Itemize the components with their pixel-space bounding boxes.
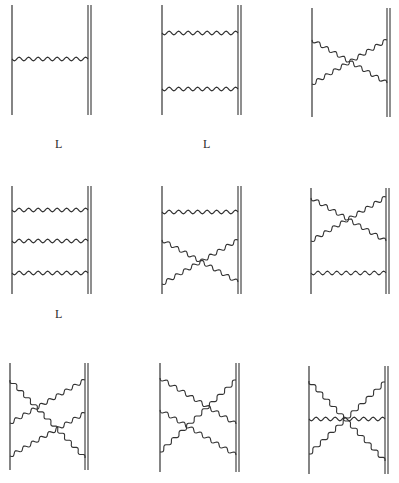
diagram-triple-cross-a [10, 363, 88, 470]
diagram-label: L [203, 137, 210, 152]
diagram-ladder-3 [12, 186, 91, 294]
diagram-ladder-2 [162, 5, 241, 115]
exchange-wavy-line [160, 410, 236, 455]
exchange-wavy-line [312, 40, 387, 85]
diagram-crossed-upper-ladder [311, 188, 389, 294]
exchange-wavy-line [162, 87, 238, 91]
diagram-figure [0, 0, 399, 483]
diagram-triple-cross-c [309, 366, 388, 474]
diagram-ladder-crossed-lower [162, 186, 241, 294]
exchange-wavy-line [162, 31, 238, 35]
exchange-wavy-line [311, 271, 386, 275]
diagram-label: L [55, 137, 62, 152]
exchange-wavy-line [12, 208, 88, 212]
diagram-ladder-1 [12, 5, 91, 115]
exchange-wavy-line [12, 239, 88, 243]
exchange-wavy-line [160, 378, 236, 424]
diagram-triple-cross-b [160, 363, 239, 472]
exchange-wavy-line [12, 57, 88, 61]
diagram-crossed-2 [312, 8, 390, 117]
exchange-wavy-line [162, 210, 238, 214]
exchange-wavy-line [162, 240, 238, 285]
exchange-wavy-line [311, 197, 386, 242]
diagram-label: L [55, 307, 62, 322]
exchange-wavy-line [12, 271, 88, 275]
